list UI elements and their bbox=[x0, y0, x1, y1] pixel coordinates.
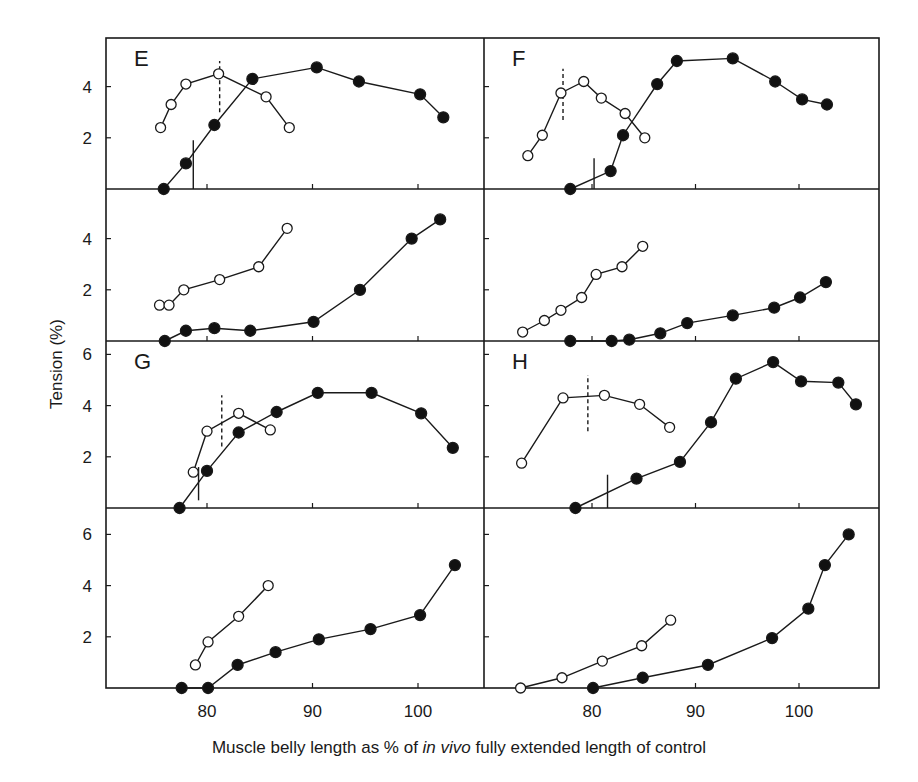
series-line-filled bbox=[180, 393, 453, 508]
panel-f-lower bbox=[484, 239, 831, 347]
open-circle-marker bbox=[265, 425, 275, 435]
open-circle-marker bbox=[164, 300, 174, 310]
open-circle-marker bbox=[523, 151, 533, 161]
x-tick-label: 100 bbox=[785, 702, 813, 721]
x-axis-title: Muscle belly length as % of in vivo full… bbox=[0, 738, 918, 758]
open-circle-marker bbox=[284, 123, 294, 133]
filled-circle-marker bbox=[727, 53, 738, 64]
x-axis-title-part-3: fully extended length of control bbox=[471, 738, 706, 757]
open-circle-marker bbox=[234, 611, 244, 621]
filled-circle-marker bbox=[618, 130, 629, 141]
filled-circle-marker bbox=[438, 112, 449, 123]
panel-h-lower: 8090100 bbox=[484, 529, 854, 721]
open-circle-marker bbox=[640, 133, 650, 143]
open-circle-marker bbox=[179, 285, 189, 295]
filled-circle-marker bbox=[354, 284, 365, 295]
open-circle-marker bbox=[665, 422, 675, 432]
figure-canvas: 24EF24246GH24680901008090100 Tension (%) bbox=[0, 0, 918, 782]
open-circle-marker bbox=[181, 79, 191, 89]
filled-circle-marker bbox=[174, 503, 185, 514]
filled-circle-marker bbox=[821, 99, 832, 110]
filled-circle-marker bbox=[203, 683, 214, 694]
panel-letter: G bbox=[134, 349, 151, 374]
filled-circle-marker bbox=[570, 503, 581, 514]
filled-circle-marker bbox=[209, 323, 220, 334]
filled-circle-marker bbox=[158, 184, 169, 195]
filled-circle-marker bbox=[271, 407, 282, 418]
filled-circle-marker bbox=[795, 292, 806, 303]
y-axis-title: Tension (%) bbox=[47, 319, 66, 409]
filled-circle-marker bbox=[768, 357, 779, 368]
open-circle-marker bbox=[263, 581, 273, 591]
series-line-open bbox=[522, 395, 670, 463]
filled-circle-marker bbox=[850, 399, 861, 410]
filled-circle-marker bbox=[415, 89, 426, 100]
filled-circle-marker bbox=[682, 318, 693, 329]
open-circle-marker bbox=[635, 399, 645, 409]
open-circle-marker bbox=[599, 390, 609, 400]
filled-circle-marker bbox=[674, 456, 685, 467]
series-line-open bbox=[160, 228, 288, 305]
x-tick-label: 80 bbox=[583, 702, 602, 721]
filled-circle-marker bbox=[311, 62, 322, 73]
panel-letter: E bbox=[134, 46, 149, 71]
filled-circle-marker bbox=[706, 417, 717, 428]
panel-e: 24E bbox=[83, 46, 449, 195]
y-tick-label: 2 bbox=[83, 281, 92, 300]
x-tick-label: 90 bbox=[303, 702, 322, 721]
y-tick-label: 4 bbox=[83, 78, 92, 97]
x-tick-label: 80 bbox=[198, 702, 217, 721]
open-circle-marker bbox=[202, 426, 212, 436]
filled-circle-marker bbox=[631, 473, 642, 484]
panel-g-lower: 2468090100 bbox=[83, 525, 461, 721]
filled-circle-marker bbox=[767, 633, 778, 644]
x-axis-title-italic: in vivo bbox=[423, 738, 471, 757]
panel-g: 246G bbox=[83, 345, 459, 513]
open-circle-marker bbox=[637, 641, 647, 651]
y-tick-label: 4 bbox=[83, 577, 92, 596]
series-line-filled bbox=[575, 362, 856, 508]
open-circle-marker bbox=[666, 615, 676, 625]
filled-circle-marker bbox=[232, 659, 243, 670]
filled-circle-marker bbox=[270, 647, 281, 658]
open-circle-marker bbox=[203, 637, 213, 647]
filled-circle-marker bbox=[655, 328, 666, 339]
filled-circle-marker bbox=[245, 325, 256, 336]
filled-circle-marker bbox=[159, 336, 170, 347]
filled-circle-marker bbox=[308, 316, 319, 327]
open-circle-marker bbox=[579, 76, 589, 86]
filled-circle-marker bbox=[366, 387, 377, 398]
filled-circle-marker bbox=[447, 442, 458, 453]
open-circle-marker bbox=[214, 69, 224, 79]
open-circle-marker bbox=[557, 673, 567, 683]
filled-circle-marker bbox=[820, 277, 831, 288]
open-circle-marker bbox=[556, 305, 566, 315]
y-tick-label: 6 bbox=[83, 345, 92, 364]
open-circle-marker bbox=[558, 393, 568, 403]
filled-circle-marker bbox=[180, 158, 191, 169]
filled-circle-marker bbox=[353, 76, 364, 87]
open-circle-marker bbox=[556, 88, 566, 98]
open-circle-marker bbox=[166, 100, 176, 110]
filled-circle-marker bbox=[406, 233, 417, 244]
open-circle-marker bbox=[516, 683, 526, 693]
panel-letter: H bbox=[512, 349, 528, 374]
open-circle-marker bbox=[537, 130, 547, 140]
y-tick-label: 6 bbox=[83, 525, 92, 544]
x-tick-label: 90 bbox=[686, 702, 705, 721]
filled-circle-marker bbox=[796, 376, 807, 387]
series-line-filled bbox=[164, 67, 444, 189]
open-circle-marker bbox=[188, 467, 198, 477]
filled-circle-marker bbox=[637, 672, 648, 683]
x-tick-label: 100 bbox=[404, 702, 432, 721]
filled-circle-marker bbox=[833, 377, 844, 388]
filled-circle-marker bbox=[435, 214, 446, 225]
filled-circle-marker bbox=[415, 610, 426, 621]
filled-circle-marker bbox=[313, 634, 324, 645]
series-line-filled bbox=[570, 282, 826, 341]
filled-circle-marker bbox=[671, 56, 682, 67]
filled-circle-marker bbox=[702, 659, 713, 670]
open-circle-marker bbox=[215, 275, 225, 285]
panel-f: F bbox=[484, 46, 832, 195]
open-circle-marker bbox=[518, 327, 528, 337]
